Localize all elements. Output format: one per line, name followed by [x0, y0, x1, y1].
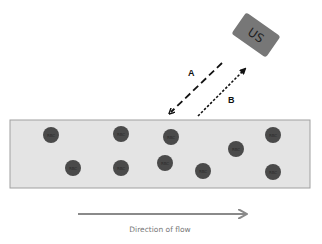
- rbc-label: RBC: [117, 132, 125, 137]
- red-blood-cell: RBC: [113, 126, 129, 142]
- red-blood-cell: RBC: [65, 160, 81, 176]
- red-blood-cell: RBC: [113, 160, 129, 176]
- rbc-label: RBC: [269, 170, 277, 175]
- rbc-label: RBC: [269, 133, 277, 138]
- red-blood-cell: RBC: [163, 129, 179, 145]
- red-blood-cell: RBC: [265, 127, 281, 143]
- rbc-label: RBC: [232, 147, 240, 152]
- rbc-label: RBC: [69, 166, 77, 171]
- red-blood-cell: RBC: [228, 141, 244, 157]
- beam-b-arrow: [198, 69, 245, 116]
- red-blood-cell: RBC: [265, 164, 281, 180]
- rbc-label: RBC: [199, 169, 207, 174]
- doppler-diagram: RBCRBCRBCRBCRBCRBCRBCRBCRBCRBC US A B Di…: [0, 0, 322, 244]
- red-blood-cell: RBC: [195, 163, 211, 179]
- rbc-label: RBC: [167, 135, 175, 140]
- red-blood-cell: RBC: [157, 155, 173, 171]
- rbc-label: RBC: [117, 166, 125, 171]
- flow-direction-label: Direction of flow: [129, 225, 190, 234]
- beam-a-arrow: [171, 63, 222, 112]
- ultrasound-transducer: US: [231, 12, 280, 57]
- rbc-label: RBC: [161, 161, 169, 166]
- beam-a-label: A: [188, 68, 195, 78]
- red-blood-cell: RBC: [43, 127, 59, 143]
- beam-b-label: B: [228, 95, 235, 105]
- rbc-label: RBC: [47, 133, 55, 138]
